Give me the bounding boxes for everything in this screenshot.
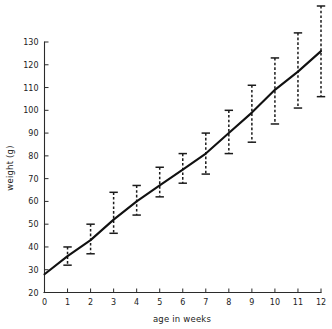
x-tick-label: 4 <box>134 298 139 307</box>
x-tick-label: 0 <box>42 298 47 307</box>
x-tick-label: 3 <box>111 298 116 307</box>
error-bars-group <box>63 6 325 265</box>
y-tick-label: 100 <box>23 106 38 115</box>
y-tick-label: 130 <box>23 38 38 47</box>
plot-axes <box>44 42 321 293</box>
x-tick-label: 10 <box>270 298 280 307</box>
weight-vs-age-line-chart: 2030405060708090100110120130 01234567891… <box>0 0 332 329</box>
x-tick-label: 1 <box>65 298 70 307</box>
x-tick-label: 2 <box>88 298 93 307</box>
x-tick-label: 5 <box>157 298 162 307</box>
x-tick-label: 9 <box>249 298 254 307</box>
x-tick-label: 8 <box>226 298 231 307</box>
y-tick-label: 60 <box>28 197 38 206</box>
y-axis-title: weight (g) <box>5 145 15 190</box>
y-tick-label: 40 <box>28 243 38 252</box>
x-tick-label: 6 <box>180 298 185 307</box>
x-axis-ticks: 0123456789101112 <box>42 289 326 307</box>
x-tick-label: 11 <box>293 298 303 307</box>
y-tick-label: 70 <box>28 175 38 184</box>
y-tick-label: 30 <box>28 266 38 275</box>
y-tick-label: 120 <box>23 61 38 70</box>
x-axis-title: age in weeks <box>153 314 212 324</box>
x-tick-label: 7 <box>203 298 208 307</box>
y-tick-label: 90 <box>28 129 38 138</box>
y-tick-label: 20 <box>28 289 38 298</box>
y-tick-label: 50 <box>28 220 38 229</box>
y-tick-label: 110 <box>23 84 38 93</box>
weight-trend-line <box>45 51 322 274</box>
chart-container: 2030405060708090100110120130 01234567891… <box>0 0 332 329</box>
y-tick-label: 80 <box>28 152 38 161</box>
x-tick-label: 12 <box>316 298 326 307</box>
